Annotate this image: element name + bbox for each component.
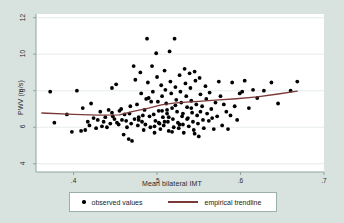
scatter-point	[189, 106, 193, 110]
scatter-point	[100, 124, 104, 128]
scatter-point	[155, 75, 159, 79]
scatter-point	[170, 106, 174, 110]
scatter-point	[194, 79, 198, 83]
scatter-point	[196, 122, 200, 126]
scatter-point	[177, 126, 181, 130]
scatter-point	[83, 128, 87, 132]
scatter-point	[243, 79, 247, 83]
scatter-point	[217, 80, 221, 84]
scatter-point	[185, 105, 189, 109]
scatter-point	[214, 101, 218, 105]
scatter-point	[207, 119, 211, 123]
scatter-point	[119, 107, 123, 111]
scatter-point	[150, 64, 154, 68]
scatter-point	[222, 103, 226, 107]
scatter-point	[270, 81, 274, 85]
legend-label-observed-values: observed values	[92, 199, 143, 206]
scatter-point	[200, 104, 204, 108]
scatter-point	[153, 131, 157, 135]
scatter-point	[184, 82, 188, 86]
scatter-point	[133, 78, 137, 82]
scatter-point	[181, 112, 185, 116]
scatter-point	[226, 127, 230, 131]
scatter-point	[110, 111, 114, 115]
scatter-point	[86, 120, 90, 124]
scatter-point	[144, 97, 148, 101]
scatter-point	[195, 113, 199, 117]
scatter-point	[163, 120, 167, 124]
legend-item-observed-values: observed values	[82, 199, 142, 206]
scatter-point	[132, 64, 136, 68]
scatter-point	[153, 119, 157, 123]
scatter-point	[138, 71, 142, 75]
scatter-point	[163, 88, 167, 92]
scatter-point	[162, 124, 166, 128]
y-tick-label: 12	[19, 9, 26, 25]
scatter-point	[179, 90, 183, 94]
scatter-point	[230, 81, 234, 85]
scatter-point	[108, 122, 112, 126]
scatter-point	[94, 126, 98, 130]
scatter-point	[107, 108, 111, 112]
scatter-point	[174, 98, 178, 102]
scatter-point	[202, 126, 206, 130]
scatter-point	[98, 110, 102, 114]
scatter-point	[295, 80, 299, 84]
scatter-point	[247, 106, 251, 110]
scatter-point	[137, 118, 141, 122]
scatter-point	[128, 104, 132, 108]
scatter-point	[181, 123, 185, 127]
scatter-point	[194, 103, 198, 107]
scatter-point	[201, 118, 205, 122]
scatter-point	[185, 117, 189, 121]
scatter-point	[276, 102, 280, 106]
scatter-point	[92, 116, 96, 120]
scatter-point	[262, 89, 266, 93]
scatter-point	[110, 86, 114, 90]
scatter-point	[135, 103, 139, 107]
scatter-point	[240, 90, 244, 94]
scatter-point	[188, 71, 192, 75]
legend-item-empirical-trendline: empirical trendline	[168, 199, 261, 206]
scatter-point	[141, 113, 145, 117]
scatter-point	[189, 86, 193, 90]
scatter-point	[167, 115, 171, 119]
scatter-point	[75, 89, 79, 93]
scatter-point	[156, 100, 160, 104]
scatter-point	[148, 125, 152, 129]
scatter-point	[205, 112, 209, 116]
scatter-point	[81, 106, 85, 110]
scatter-point	[251, 88, 255, 92]
scatter-point	[88, 124, 92, 128]
scatter-point	[146, 81, 150, 85]
scatter-point	[215, 114, 219, 118]
scatter-point	[157, 109, 161, 113]
scatter-point	[204, 84, 208, 88]
scatter-point	[187, 124, 191, 128]
y-tick-label: 4	[19, 155, 26, 171]
scatter-point	[193, 132, 197, 136]
scatter-point	[52, 121, 56, 125]
scatter-point	[139, 92, 143, 96]
scatter-point	[174, 103, 178, 107]
scatter-point	[130, 139, 134, 143]
scatter-point	[153, 124, 157, 128]
scatter-point	[145, 37, 149, 41]
scatter-point	[79, 129, 83, 133]
scatter-point	[170, 130, 174, 134]
scatter-point	[190, 111, 194, 115]
scatter-point	[163, 69, 167, 73]
scatter-point	[160, 109, 164, 113]
scatter-point	[89, 102, 93, 106]
scatter-point	[182, 131, 186, 135]
scatter-point	[165, 112, 169, 116]
scatter-point	[129, 122, 133, 126]
scatter-point	[169, 92, 173, 96]
trendline-swatch-icon	[168, 201, 198, 202]
scatter-point	[191, 120, 195, 124]
scatter-point	[233, 104, 237, 108]
scatter-point	[174, 85, 178, 89]
scatter-point	[184, 94, 188, 98]
scatter-point	[219, 94, 223, 98]
scatter-point	[127, 137, 131, 141]
